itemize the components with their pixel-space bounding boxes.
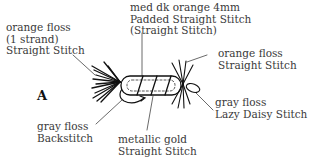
- leader-head: [187, 55, 207, 62]
- leader-tail: [73, 55, 95, 75]
- fly-body: [121, 76, 181, 95]
- figure-letter: A: [37, 88, 47, 103]
- eye-lazy-daisy: [185, 82, 201, 94]
- label-head: orange floss Straight Stitch: [218, 48, 297, 71]
- leader-gold: [147, 96, 153, 130]
- label-gold: metallic gold Straight Stitch: [118, 134, 197, 157]
- label-hook: gray floss Backstitch: [37, 121, 93, 144]
- label-body: med dk orange 4mm Padded Straight Stitch…: [130, 2, 251, 37]
- leader-hook: [96, 100, 122, 124]
- label-eye: gray floss Lazy Daisy Stitch: [215, 97, 307, 120]
- leader-eye: [195, 92, 213, 110]
- label-tail: orange floss (1 strand) Straight Stitch: [6, 22, 85, 57]
- tail-stitches: [92, 62, 120, 102]
